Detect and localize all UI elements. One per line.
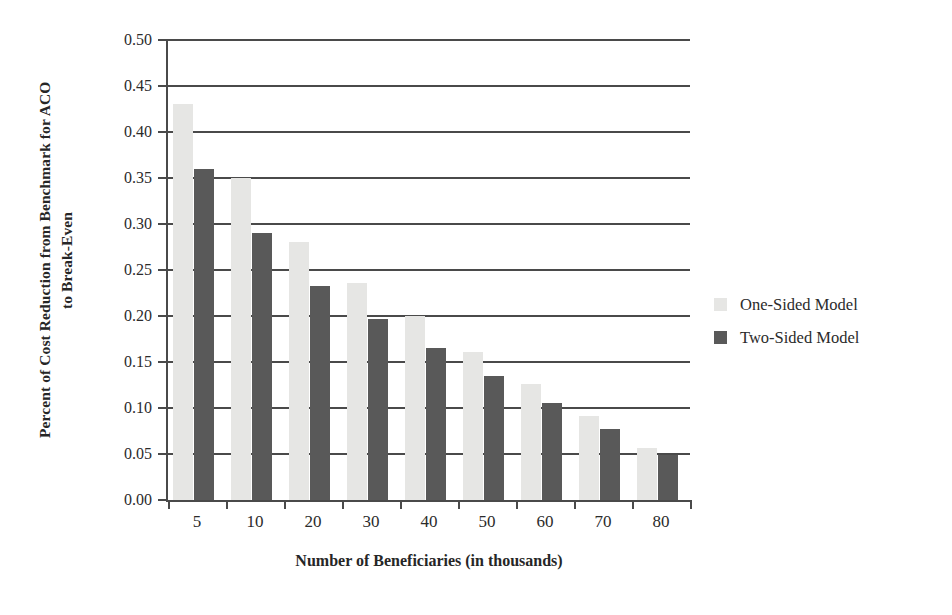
y-axis-tick-labels: 0.000.050.100.150.200.250.300.350.400.45…: [96, 0, 152, 615]
x-axis-tick-label: 80: [632, 512, 690, 532]
bar-two-sided-60: [542, 403, 562, 500]
y-axis-tick-label: 0.15: [96, 354, 152, 370]
x-axis-tick-label: 20: [284, 512, 342, 532]
bar-two-sided-10: [252, 233, 272, 500]
bar-two-sided-20: [310, 286, 330, 500]
bar-two-sided-70: [600, 429, 620, 500]
gridline: [168, 39, 690, 41]
x-axis-tick-mark: [284, 500, 286, 509]
legend-item-one-sided: One-Sided Model: [714, 288, 934, 321]
x-axis-tick-label: 50: [458, 512, 516, 532]
x-axis-tick-mark: [632, 500, 634, 509]
x-axis-tick-mark: [342, 500, 344, 509]
bar-one-sided-60: [521, 384, 541, 500]
x-axis-tick-label: 70: [574, 512, 632, 532]
x-axis-line: [166, 500, 692, 502]
bar-two-sided-5: [194, 169, 214, 500]
legend-swatch-icon-two-sided: [714, 331, 727, 344]
legend-swatch-icon-one-sided: [714, 298, 727, 311]
bar-one-sided-50: [463, 352, 483, 500]
y-axis-label-line-2: to Break-Even: [58, 40, 76, 480]
bar-one-sided-5: [173, 104, 193, 500]
legend-label-one-sided: One-Sided Model: [740, 295, 858, 315]
x-axis-tick-label: 10: [226, 512, 284, 532]
x-axis-tick-mark: [226, 500, 228, 509]
bar-two-sided-30: [368, 319, 388, 500]
y-axis-tick-label: 0.10: [96, 400, 152, 416]
y-axis-tick-label: 0.40: [96, 124, 152, 140]
y-axis-tick-label: 0.35: [96, 170, 152, 186]
bar-one-sided-30: [347, 283, 367, 500]
x-axis-tick-mark: [400, 500, 402, 509]
plot-area: 51020304050607080: [168, 40, 690, 500]
bar-two-sided-50: [484, 376, 504, 500]
y-axis-tick-label: 0.45: [96, 78, 152, 94]
chart-figure: Percent of Cost Reduction from Benchmark…: [0, 0, 952, 615]
bar-two-sided-80: [658, 455, 678, 500]
bar-one-sided-70: [579, 416, 599, 500]
x-axis-tick-mark: [168, 500, 170, 509]
bar-one-sided-40: [405, 316, 425, 500]
y-axis-label: Percent of Cost Reduction from Benchmark…: [14, 40, 92, 480]
chart-legend: One-Sided Model Two-Sided Model: [714, 288, 934, 354]
y-axis-tick-label: 0.20: [96, 308, 152, 324]
y-axis-tick-label: 0.50: [96, 32, 152, 48]
x-axis-tick-mark: [516, 500, 518, 509]
x-axis-label: Number of Beneficiaries (in thousands): [168, 552, 690, 570]
legend-label-two-sided: Two-Sided Model: [740, 328, 859, 348]
bar-one-sided-20: [289, 242, 309, 500]
gridline: [168, 85, 690, 87]
y-axis-tick-label: 0.30: [96, 216, 152, 232]
x-axis-tick-label: 30: [342, 512, 400, 532]
x-axis-tick-label: 40: [400, 512, 458, 532]
x-axis-tick-label: 60: [516, 512, 574, 532]
legend-item-two-sided: Two-Sided Model: [714, 321, 934, 354]
y-axis-line: [166, 40, 168, 502]
y-axis-tick-label: 0.25: [96, 262, 152, 278]
bar-two-sided-40: [426, 348, 446, 500]
y-axis-tick-label: 0.05: [96, 446, 152, 462]
x-axis-tick-label: 5: [168, 512, 226, 532]
x-axis-tick-mark: [574, 500, 576, 509]
y-axis-tick-label: 0.00: [96, 492, 152, 508]
bar-one-sided-10: [231, 178, 251, 500]
gridline: [168, 131, 690, 133]
y-axis-label-line-1: Percent of Cost Reduction from Benchmark…: [36, 40, 54, 480]
x-axis-tick-mark: [690, 500, 692, 509]
x-axis-tick-mark: [458, 500, 460, 509]
bar-one-sided-80: [637, 448, 657, 500]
